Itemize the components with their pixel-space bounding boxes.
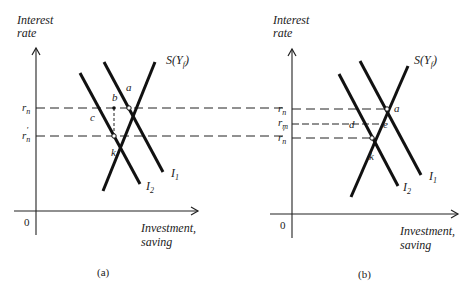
point-a-a (127, 106, 131, 110)
rate-label-rn-b: rn (278, 102, 286, 117)
caption-b: (b) (358, 268, 371, 281)
point-label-d-b: d (349, 118, 355, 130)
caption-a: (a) (97, 266, 110, 279)
y-axis-label-a-1: Interest (16, 13, 54, 27)
point-label-b-a: b (112, 91, 118, 103)
point-label-k-b: k (369, 150, 375, 162)
point-label-a-a: a (126, 81, 132, 93)
panel-a: Interest rate S(Yf) rn rn′ a b c k I1 I2… (14, 13, 283, 279)
point-b-a (112, 106, 116, 110)
point-a-b (385, 107, 389, 111)
point-label-e-b: e (383, 118, 388, 130)
investment-saving-diagram: Interest rate S(Yf) rn rn′ a b c k I1 I2… (0, 0, 471, 293)
point-k-a (112, 134, 116, 138)
x-axis-label-a-1: Investment, (140, 221, 196, 235)
x-axis-label-b-2: saving (400, 238, 431, 252)
saving-curve-label-a: S(Yf) (166, 53, 189, 69)
saving-curve-label-b: S(Yf) (414, 53, 437, 69)
investment-label-i2-a: I2 (145, 179, 154, 195)
investment-label-i2-b: I2 (402, 180, 411, 196)
point-label-a-b: a (394, 102, 400, 114)
y-axis-label-b-1: Interest (272, 13, 310, 27)
investment-label-i1-a: I1 (170, 166, 179, 182)
y-axis-label-a-2: rate (17, 26, 37, 40)
point-label-c-a: c (90, 111, 95, 123)
point-k-b (370, 136, 374, 140)
investment-label-i1-b: I1 (428, 169, 437, 185)
saving-curve-b (351, 66, 408, 197)
panel-b: Interest rate S(Yf) rn rm rn′ a d e k I1… (270, 13, 458, 281)
rate-label-rn-prime-a: rn′ (22, 125, 30, 144)
x-axis-label-b-1: Investment, (399, 224, 455, 238)
origin-label-b: 0 (280, 219, 286, 231)
y-axis-label-b-2: rate (273, 26, 293, 40)
investment-curve-i2-b (339, 74, 398, 186)
rate-label-rn-a: rn (22, 101, 30, 116)
origin-label-a: 0 (24, 216, 30, 228)
x-axis-label-a-2: saving (141, 235, 172, 249)
